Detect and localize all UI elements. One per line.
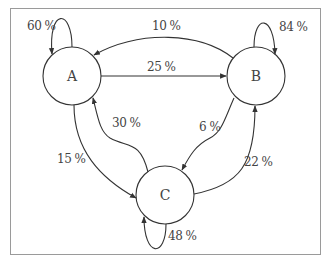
svg-text:15 %: 15 % <box>57 152 86 166</box>
markov-diagram: A B C 60 % 10 % 25 % 84 % 30 % 6 % 15 <box>0 0 330 263</box>
node-a: A <box>43 47 101 105</box>
svg-text:25 %: 25 % <box>147 60 176 74</box>
node-c: C <box>136 166 194 224</box>
edge-c-c: 48 % <box>144 217 197 249</box>
svg-text:30 %: 30 % <box>112 116 141 130</box>
svg-text:22 %: 22 % <box>244 155 273 169</box>
edge-b-c: 6 % <box>182 98 234 170</box>
svg-text:A: A <box>66 68 78 84</box>
svg-text:6 %: 6 % <box>199 120 220 134</box>
node-b: B <box>227 47 285 105</box>
edge-c-a: 30 % <box>93 98 148 172</box>
edge-a-b: 25 % <box>101 60 226 76</box>
svg-text:48 %: 48 % <box>168 229 197 243</box>
svg-text:B: B <box>251 68 261 84</box>
edge-b-b: 84 % <box>254 20 308 54</box>
svg-text:C: C <box>160 187 171 203</box>
edge-a-a: 60 % <box>27 19 72 54</box>
svg-text:60 %: 60 % <box>27 19 56 33</box>
svg-text:84 %: 84 % <box>279 20 308 34</box>
svg-text:10 %: 10 % <box>152 19 181 33</box>
edge-b-a: 10 % <box>94 19 233 58</box>
